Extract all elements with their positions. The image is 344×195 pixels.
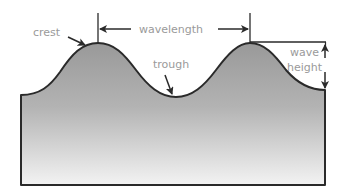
wave-height-label-line1: wave bbox=[290, 46, 319, 59]
trough-label: trough bbox=[153, 58, 189, 71]
wavelength-label: wavelength bbox=[139, 23, 203, 36]
wave-height-label-line2: height bbox=[287, 61, 323, 74]
crest-label: crest bbox=[33, 26, 61, 39]
crest-arrow-icon bbox=[68, 37, 85, 45]
wave-diagram: crest wavelength trough wave height bbox=[0, 0, 344, 195]
trough-arrow-icon bbox=[165, 75, 172, 94]
